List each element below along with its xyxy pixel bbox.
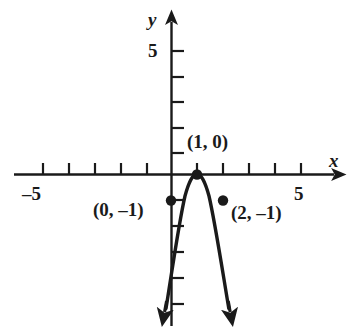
right-point-label: (2, –1) — [231, 203, 282, 222]
vertex-point-label: (1, 0) — [187, 132, 228, 151]
point-left — [166, 195, 176, 205]
y-axis-label: y — [148, 10, 156, 29]
point-right — [218, 195, 228, 205]
x-axis-tick-label-negative-5: –5 — [22, 184, 41, 203]
y-axis-tick-label-5: 5 — [148, 41, 158, 60]
parabola-curve — [165, 175, 231, 313]
x-axis — [14, 163, 334, 175]
point-vertex — [192, 169, 202, 179]
coordinate-plane-svg — [0, 0, 351, 334]
parabola-figure: y x 5 –5 5 (1, 0) (0, –1) (2, –1) — [0, 0, 351, 334]
x-axis-tick-label-5: 5 — [294, 184, 304, 203]
x-axis-label: x — [329, 151, 339, 170]
left-point-label: (0, –1) — [93, 200, 144, 219]
